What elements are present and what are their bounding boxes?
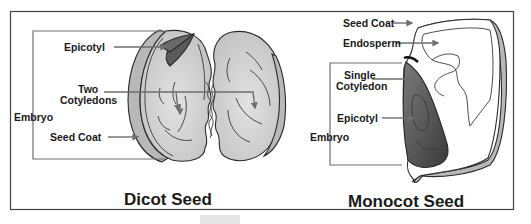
dicot-cotyledons-label-line2: Cotyledons [60, 94, 117, 106]
monocot-seed-coat-label: Seed Coat [343, 17, 395, 29]
dicot-title: Dicot Seed [124, 190, 212, 209]
dicot-embryo-label: Embryo [14, 111, 53, 123]
monocot-seed-illustration [403, 19, 506, 182]
bottom-tab [200, 215, 240, 224]
monocot-embryo-label: Embryo [310, 131, 349, 143]
monocot-epicotyl-label: Epicotyl [337, 112, 378, 124]
monocot-endosperm-label: Endosperm [343, 37, 401, 49]
monocot-title: Monocot Seed [348, 192, 464, 211]
monocot-cotyledon-label-line2: Cotyledon [336, 80, 387, 92]
dicot-seed-coat-label: Seed Coat [50, 131, 102, 143]
dicot-seed-illustration [128, 30, 286, 162]
seed-diagram: Epicotyl Two Cotyledons Embryo Seed Coat… [0, 0, 531, 224]
dicot-epicotyl-label: Epicotyl [64, 41, 105, 53]
